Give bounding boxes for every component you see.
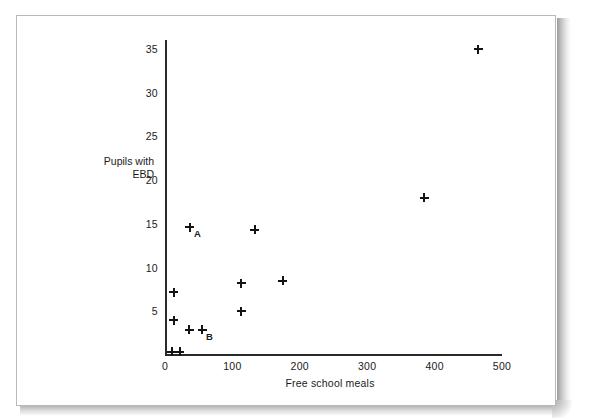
data-point-marker — [185, 325, 194, 334]
scatter-plot: Pupils with EBD Free school meals 510152… — [0, 0, 590, 419]
y-axis-line — [165, 40, 167, 356]
x-tick-label: 500 — [482, 361, 522, 372]
x-tick-label: 100 — [212, 361, 252, 372]
data-point-label-a: A — [194, 229, 201, 239]
scanned-figure-page: Pupils with EBD Free school meals 510152… — [0, 0, 590, 419]
x-tick-label: 400 — [415, 361, 455, 372]
data-point-marker — [169, 288, 178, 297]
data-point-marker — [278, 276, 287, 285]
data-point-marker — [237, 307, 246, 316]
y-tick-label: 20 — [132, 175, 158, 186]
y-tick-label: 10 — [132, 263, 158, 274]
data-point-marker — [237, 279, 246, 288]
x-tick-label: 300 — [347, 361, 387, 372]
data-point-marker — [474, 45, 483, 54]
x-axis-line — [165, 354, 502, 356]
y-tick-label: 25 — [132, 131, 158, 142]
x-tick-label: 0 — [145, 361, 185, 372]
data-point-marker — [420, 193, 429, 202]
y-axis-title-line-1: Pupils with — [58, 155, 154, 168]
data-point-marker — [250, 225, 259, 234]
data-point-marker — [169, 316, 178, 325]
y-tick-label: 30 — [132, 88, 158, 99]
data-point-label-b: B — [206, 332, 213, 342]
y-tick-label: 35 — [132, 44, 158, 55]
x-tick-label: 200 — [280, 361, 320, 372]
y-tick-label: 15 — [132, 219, 158, 230]
x-axis-title: Free school meals — [230, 377, 430, 389]
y-tick-label: 5 — [132, 306, 158, 317]
data-point-marker — [175, 347, 184, 356]
